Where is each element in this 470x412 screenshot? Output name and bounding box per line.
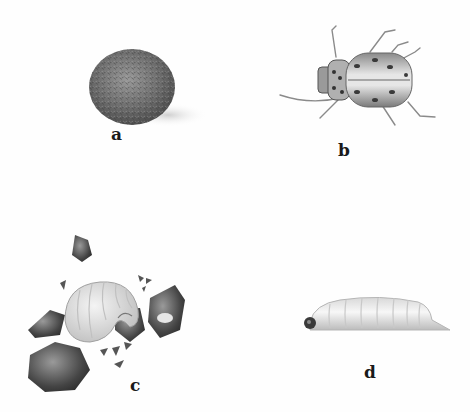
illustration-plate: a xyxy=(0,0,470,412)
figure-c-curled-grub xyxy=(20,230,200,400)
figure-a-egg-mass xyxy=(80,35,220,135)
figure-label-c: c xyxy=(130,377,140,394)
larva-illustration xyxy=(300,290,460,340)
figure-label-a: a xyxy=(111,126,122,143)
beetle-illustration xyxy=(270,20,440,140)
figure-d-larva xyxy=(300,290,460,340)
figure-b-beetle xyxy=(270,20,440,140)
figure-label-d: d xyxy=(364,364,376,381)
egg-mass-illustration xyxy=(80,35,220,135)
curled-grub-illustration xyxy=(20,230,200,400)
figure-label-b: b xyxy=(338,142,350,159)
